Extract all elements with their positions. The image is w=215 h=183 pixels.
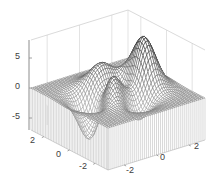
z-tick-label-0: 0 (15, 82, 20, 91)
peaks-mesh-plot (0, 0, 215, 183)
x-tick-label-0: 0 (56, 150, 61, 159)
y-tick-label-neg2: -2 (126, 166, 134, 175)
x-tick-label-neg2: -2 (79, 162, 87, 171)
y-tick-label-0: 0 (160, 153, 165, 162)
x-tick-label-2: 2 (30, 136, 35, 145)
z-tick-label-neg5: -5 (12, 112, 20, 121)
y-tick-label-2: 2 (194, 142, 199, 151)
z-tick-label-5: 5 (15, 52, 20, 61)
